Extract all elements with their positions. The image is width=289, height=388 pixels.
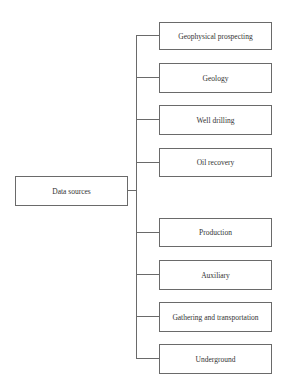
child-node-oil-recovery: Oil recovery [159,148,272,177]
child-node-underground: Underground [159,344,272,374]
branch-connector-geophysical [136,35,159,36]
child-node-label: Well drilling [197,116,235,125]
branch-connector-oil-recovery [136,162,159,163]
child-node-label: Production [199,228,232,237]
branch-connector-auxiliary [136,274,159,275]
branch-connector-underground [136,358,159,359]
child-node-well-drilling: Well drilling [159,105,272,135]
child-node-geophysical-prospecting: Geophysical prospecting [159,22,272,50]
child-node-label: Geology [203,74,229,83]
branch-connector-well-drilling [136,119,159,120]
root-node-label: Data sources [52,187,91,196]
branch-connector-geology [136,77,159,78]
child-node-label: Underground [196,355,236,364]
branch-connector-production [136,232,159,233]
root-node-data-sources: Data sources [15,176,128,206]
child-node-label: Gathering and transportation [172,313,258,322]
child-node-gathering-and-transportation: Gathering and transportation [159,302,272,332]
child-node-label: Auxiliary [201,271,230,280]
branch-connector-gathering [136,316,159,317]
child-node-auxiliary: Auxiliary [159,260,272,290]
trunk-line [136,35,137,359]
child-node-label: Oil recovery [197,158,235,167]
child-node-geology: Geology [159,63,272,93]
child-node-production: Production [159,218,272,247]
child-node-label: Geophysical prospecting [178,32,252,41]
